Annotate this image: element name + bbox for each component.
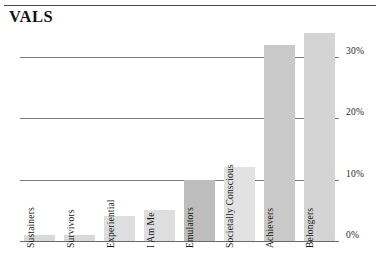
chart-page: VALS 0%10%20%30% SustainersSurvivorsExpe… bbox=[0, 0, 380, 253]
bar-label-experiential: Experiential bbox=[105, 199, 116, 248]
bar-label-achievers: Achievers bbox=[264, 208, 275, 248]
bar-label-sustainers: Sustainers bbox=[25, 207, 36, 248]
bars-group: SustainersSurvivorsExperientialI Am MeEm… bbox=[0, 0, 380, 253]
bar-label-societally-conscious: Societally Conscious bbox=[224, 164, 235, 248]
bar-label-survivors: Survivors bbox=[65, 209, 76, 248]
bar-label-i-am-me: I Am Me bbox=[145, 212, 156, 248]
bar-label-belongers: Belongers bbox=[304, 208, 315, 248]
bar-label-emulators: Emulators bbox=[184, 207, 195, 248]
